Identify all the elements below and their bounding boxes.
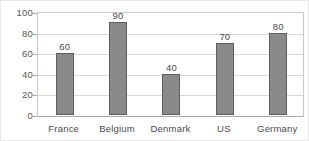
x-axis-baseline [38, 116, 303, 117]
bar-slot: 70 [198, 11, 251, 115]
y-axis-tick-label: 40 [7, 70, 33, 80]
bar-slot: 60 [38, 11, 91, 115]
bar-slot: 40 [145, 11, 198, 115]
x-axis-label-belgium: Belgium [90, 123, 143, 135]
x-axis-category-labels: FranceBelgiumDenmarkUSGermany [37, 123, 304, 139]
plot-area: 6090407080 [37, 12, 304, 117]
bar-value-label: 90 [113, 10, 124, 21]
y-axis-tick-labels: 100806040200 [3, 1, 33, 141]
y-axis-tick-label: 20 [7, 90, 33, 100]
x-axis-label-germany: Germany [251, 123, 304, 135]
bar-slot: 80 [252, 11, 305, 115]
bar-belgium[interactable] [109, 22, 127, 115]
bar-us[interactable] [216, 43, 234, 115]
bar-value-label: 80 [273, 21, 284, 32]
bar-denmark[interactable] [162, 74, 180, 115]
bar-value-label: 60 [59, 41, 70, 52]
x-axis-label-denmark: Denmark [144, 123, 197, 135]
y-axis-tick-label: 60 [7, 49, 33, 59]
bar-series: 6090407080 [38, 13, 303, 116]
bar-germany[interactable] [269, 33, 287, 115]
bar-value-label: 40 [166, 62, 177, 73]
x-axis-label-us: US [197, 123, 250, 135]
bar-value-label: 70 [219, 31, 230, 42]
bar-slot: 90 [91, 11, 144, 115]
bar-france[interactable] [56, 53, 74, 115]
bar-chart-figure: 100806040200 6090407080 FranceBelgiumDen… [0, 0, 309, 141]
y-axis-tick-label: 80 [7, 29, 33, 39]
y-axis-tick-label: 0 [7, 111, 33, 121]
x-axis-label-france: France [37, 123, 90, 135]
y-axis-tick-label: 100 [7, 8, 33, 18]
